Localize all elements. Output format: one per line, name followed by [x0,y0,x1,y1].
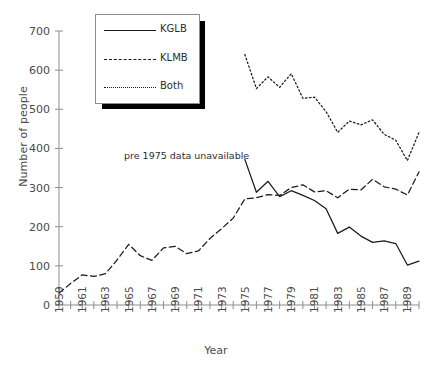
x-tick-label: 1963 [99,286,111,313]
legend-swatch-solid-icon [104,30,156,32]
x-axis-title: Year [0,344,432,357]
chart-container: Number of people 0100200300400500600700 … [0,0,432,367]
chart-annotation: pre 1975 data unavailable [124,150,249,161]
legend-item-klmb: KLMB [96,45,199,74]
x-tick-label: 1989 [401,286,413,313]
x-tick-label: 1967 [146,286,158,313]
x-tick-label: 1981 [308,286,320,313]
x-tick-group: 1959196119631965196719691971197319751977… [53,286,419,313]
x-tick-label: 1985 [355,286,367,313]
x-tick-label: 1983 [332,286,344,313]
legend: KGLB KLMB Both [95,14,198,102]
x-tick-label: 1971 [192,286,204,313]
y-tick-label: 0 [43,299,50,312]
x-tick-label: 1961 [76,286,88,313]
y-tick-label: 600 [29,64,50,77]
y-axis: 0100200300400500600700 [29,25,63,312]
y-tick-group: 0100200300400500600700 [29,25,63,312]
legend-label: KLMB [160,52,188,63]
x-tick-label: 1987 [378,286,390,313]
x-tick-label: 1973 [216,286,228,313]
legend-label: Both [160,80,183,91]
x-tick-label: 1977 [262,286,274,313]
legend-swatch-dotted-icon [104,87,156,89]
series-line-both [245,54,419,160]
line-chart-plot: 0100200300400500600700 19591961196319651… [0,0,432,367]
legend-item-both: Both [96,73,199,102]
y-tick-label: 500 [29,103,50,116]
x-tick-label: 1979 [285,286,297,313]
x-tick-label: 1965 [123,286,135,313]
x-axis: 1959196119631965196719691971197319751977… [53,286,419,313]
annotation-layer: pre 1975 data unavailable [124,150,249,161]
legend-swatch-dashed-icon [104,59,156,61]
y-tick-label: 300 [29,182,50,195]
series-line-klmb [59,172,419,293]
y-tick-label: 400 [29,142,50,155]
legend-item-kglb: KGLB [96,16,199,45]
legend-label: KGLB [160,23,187,34]
y-tick-label: 200 [29,221,50,234]
y-tick-label: 700 [29,25,50,38]
x-tick-label: 1975 [239,286,251,313]
series-line-kglb [245,159,419,265]
legend-box: KGLB KLMB Both [95,14,200,104]
y-tick-label: 100 [29,260,50,273]
x-tick-label: 1969 [169,286,181,313]
